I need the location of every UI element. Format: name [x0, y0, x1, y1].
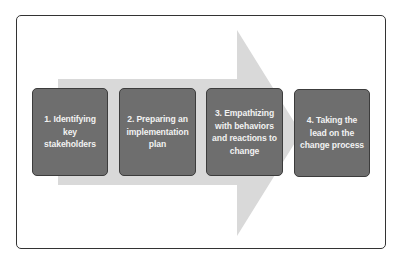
step-3-label: 3. Empathizing with behaviors and reacti…: [212, 107, 278, 157]
step-3-box: 3. Empathizing with behaviors and reacti…: [206, 88, 283, 176]
step-4-box: 4. Taking the lead on the change process: [294, 89, 370, 177]
step-1-box: 1. Identifying key stakeholders: [32, 88, 108, 176]
step-1-label: 1. Identifying key stakeholders: [38, 113, 102, 151]
step-2-box: 2. Preparing an implementation plan: [119, 88, 196, 176]
step-2-label: 2. Preparing an implementation plan: [123, 113, 192, 151]
step-4-label: 4. Taking the lead on the change process: [299, 114, 365, 152]
